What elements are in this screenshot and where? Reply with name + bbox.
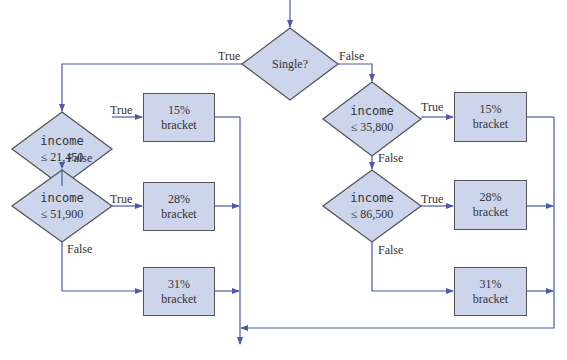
left-d2-label: income ≤ 51,900 <box>12 190 112 222</box>
single-31-bracket-box: 31% bracket <box>143 267 215 316</box>
box-rate: 15% <box>480 102 502 117</box>
single-true-label: True <box>218 50 240 63</box>
single-decision-label: Single? <box>242 56 338 72</box>
box-rate: 31% <box>168 277 190 292</box>
right-d2-condition: ≤ 86,500 <box>323 206 421 222</box>
married-31-bracket-box: 31% bracket <box>454 267 527 316</box>
box-word: bracket <box>473 292 508 307</box>
married-28-bracket-box: 28% bracket <box>454 180 527 230</box>
right-d1-false-label: False <box>378 152 403 165</box>
right-d1-variable: income <box>323 103 421 119</box>
left-d1-condition: ≤ 21,450 <box>12 149 112 165</box>
left-d1-label: income ≤ 21,450 <box>12 133 112 165</box>
left-d2-true-label: True <box>110 193 132 206</box>
box-rate: 28% <box>480 190 502 205</box>
left-d2-false-label: False <box>67 243 92 256</box>
box-word: bracket <box>161 292 196 307</box>
right-d1-condition: ≤ 35,800 <box>323 119 421 135</box>
right-d2-label: income ≤ 86,500 <box>323 190 421 222</box>
right-d2-false-label: False <box>378 244 403 257</box>
single-question-text: Single? <box>242 56 338 72</box>
right-d2-true-label: True <box>421 193 443 206</box>
box-word: bracket <box>161 207 196 222</box>
box-word: bracket <box>473 205 508 220</box>
left-d1-variable: income <box>12 133 112 149</box>
left-d2-variable: income <box>12 190 112 206</box>
box-rate: 15% <box>168 103 190 118</box>
right-d2-variable: income <box>323 190 421 206</box>
single-false-label: False <box>339 50 364 63</box>
single-28-bracket-box: 28% bracket <box>143 182 215 231</box>
right-d1-label: income ≤ 35,800 <box>323 103 421 135</box>
single-15-bracket-box: 15% bracket <box>143 93 215 142</box>
left-d2-condition: ≤ 51,900 <box>12 206 112 222</box>
box-word: bracket <box>161 118 196 133</box>
married-15-bracket-box: 15% bracket <box>454 92 527 142</box>
right-d1-true-label: True <box>421 101 443 114</box>
box-rate: 31% <box>480 277 502 292</box>
left-d1-false-label: False <box>67 152 92 165</box>
left-d1-true-label: True <box>110 104 132 117</box>
box-word: bracket <box>473 117 508 132</box>
box-rate: 28% <box>168 192 190 207</box>
